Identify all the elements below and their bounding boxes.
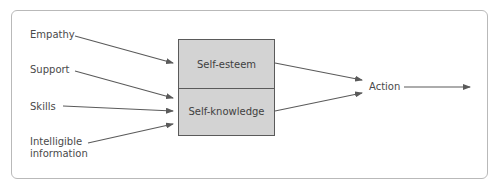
input-label-intelligible-line1: Intelligible <box>30 136 88 148</box>
input-label-intelligible-information: Intelligible information <box>30 136 88 160</box>
input-label-intelligible-line2: information <box>30 148 88 160</box>
self-knowledge-label: Self-knowledge <box>188 106 264 117</box>
output-label-action: Action <box>369 81 400 93</box>
input-label-support: Support <box>30 64 70 76</box>
self-knowledge-cell: Self-knowledge <box>179 88 274 135</box>
self-esteem-label: Self-esteem <box>197 59 256 70</box>
central-box: Self-esteem Self-knowledge <box>178 39 275 136</box>
input-label-empathy: Empathy <box>30 29 75 41</box>
input-label-skills: Skills <box>30 101 56 113</box>
self-esteem-cell: Self-esteem <box>179 40 274 89</box>
